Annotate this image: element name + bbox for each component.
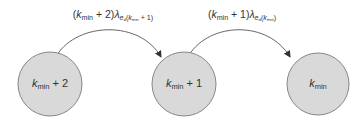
node-label-kmin: kmin	[309, 78, 327, 90]
edge-label-kmin1-to-kmin: (kmin + 1)λed(kmin)	[208, 9, 276, 22]
node-label-kmin-plus-1: kmin + 1	[166, 78, 202, 90]
node-label-suffix: + 1	[183, 77, 202, 89]
lambda-arg-rest: )	[274, 14, 276, 22]
node-label-sub: min	[315, 82, 327, 91]
node-label-suffix: + 2	[49, 77, 68, 89]
node-label-sub: min	[171, 82, 183, 91]
rate-plus: + 1)	[228, 8, 249, 20]
rate-k-sub: min	[82, 14, 93, 22]
edge-arrow-kmin2-to-kmin1	[57, 30, 161, 57]
node-label-sub: min	[37, 82, 49, 91]
lambda-arg-k-sub: min	[132, 17, 139, 22]
rate-k-sub: min	[217, 14, 228, 22]
lambda-arg-k-sub: min	[267, 17, 274, 22]
lambda-arg-rest: + 1)	[139, 14, 153, 22]
edge-arrow-kmin1-to-kmin	[189, 30, 290, 57]
edge-label-kmin2-to-kmin1: (kmin + 2)λed(kmin + 1)	[73, 9, 153, 22]
rate-plus: + 2)	[93, 8, 114, 20]
node-label-kmin-plus-2: kmin + 2	[32, 78, 68, 90]
diagram-canvas	[0, 0, 350, 121]
